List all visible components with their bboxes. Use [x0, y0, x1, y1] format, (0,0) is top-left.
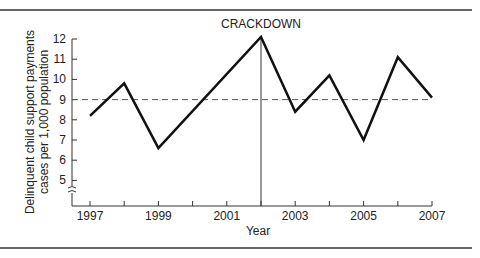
x-tick-label: 2005 [350, 209, 377, 223]
y-tick-label: 12 [53, 32, 67, 46]
y-tick-label: 10 [53, 72, 67, 86]
x-tick-label: 2003 [282, 209, 309, 223]
y-axis-label-line2: cases per 1,000 population [37, 50, 51, 194]
x-tick-label: 1997 [77, 209, 104, 223]
axes [68, 39, 432, 206]
y-tick-label: 9 [59, 93, 66, 107]
x-axis-label: Year [246, 224, 270, 238]
axis-break-icon [68, 187, 76, 193]
x-tick-label: 2001 [213, 209, 240, 223]
y-axis-label-line1: Delinquent child support payments [23, 30, 37, 214]
y-tick-label: 7 [59, 133, 66, 147]
y-tick-label: 8 [59, 113, 66, 127]
y-tick-label: 6 [59, 153, 66, 167]
x-tick-label: 1999 [145, 209, 172, 223]
x-tick-label: 2007 [419, 209, 446, 223]
y-tick-label: 11 [54, 52, 67, 66]
y-ticks: 56789101112 [53, 32, 77, 187]
chart: 56789101112 199719992001200320052007 CRA… [0, 0, 480, 258]
crackdown-annotation: CRACKDOWN [221, 17, 301, 31]
y-tick-label: 5 [59, 173, 66, 187]
